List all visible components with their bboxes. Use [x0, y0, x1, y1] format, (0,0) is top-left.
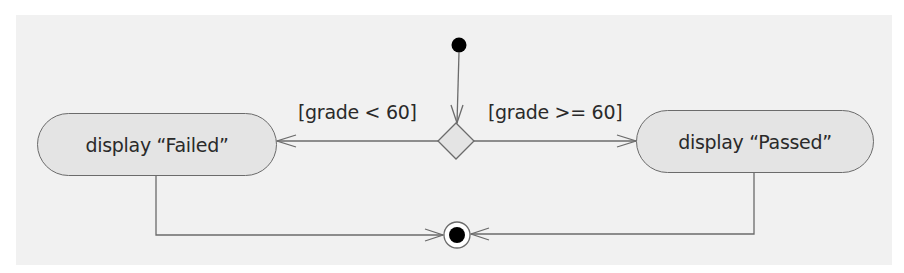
guard-label-fail: [grade < 60] — [298, 101, 417, 123]
edge-passed-to-final — [471, 172, 754, 240]
initial-node-icon — [452, 38, 467, 53]
action-label: display “Passed” — [678, 131, 832, 153]
edge-decision-to-passed — [474, 135, 636, 147]
edge-decision-to-failed — [277, 135, 438, 147]
action-label: display “Failed” — [86, 134, 229, 156]
edge-failed-to-final — [156, 175, 443, 241]
edge-initial-to-decision — [451, 52, 463, 123]
action-display-failed[interactable]: display “Failed” — [37, 113, 277, 176]
action-display-passed[interactable]: display “Passed” — [636, 110, 874, 173]
decision-node-icon — [438, 123, 474, 159]
final-node-icon — [444, 222, 470, 248]
guard-label-pass: [grade >= 60] — [488, 101, 622, 123]
